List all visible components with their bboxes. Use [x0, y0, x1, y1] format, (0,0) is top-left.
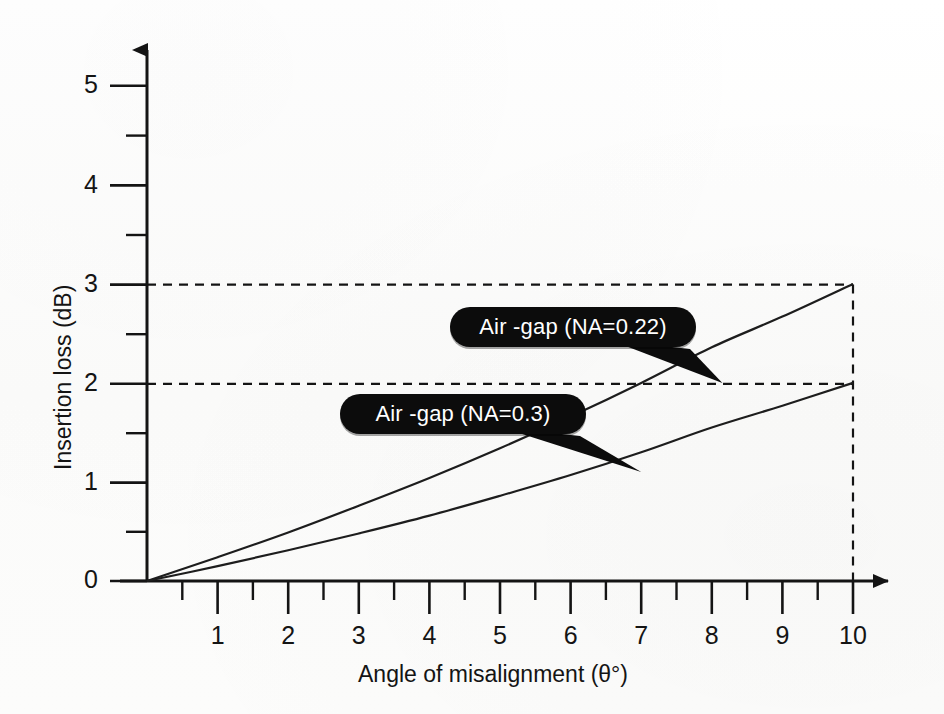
x-tick-label-7: 7	[626, 623, 656, 648]
y-tick-label-3: 3	[76, 271, 106, 296]
y-axis-title: Insertion loss (dB)	[52, 285, 75, 470]
x-tick-label-8: 8	[697, 623, 727, 648]
y-tick-label-1: 1	[76, 469, 106, 494]
x-tick-label-1: 1	[203, 623, 233, 648]
y-tick-label-0: 0	[76, 567, 106, 592]
x-tick-label-4: 4	[414, 623, 444, 648]
x-tick-label-2: 2	[273, 623, 303, 648]
x-tick-label-9: 9	[767, 623, 797, 648]
x-tick-label-3: 3	[344, 623, 374, 648]
x-tick-label-5: 5	[485, 623, 515, 648]
x-tick-label-10: 10	[834, 623, 872, 648]
callout-air-gap-na-0-3: Air -gap (NA=0.3)	[340, 394, 586, 434]
y-tick-label-4: 4	[76, 172, 106, 197]
x-axis-title: Angle of misalignment (θ°)	[358, 663, 628, 686]
plot-canvas	[0, 0, 944, 714]
callout-air-gap-na-0-22: Air -gap (NA=0.22)	[450, 307, 696, 347]
y-tick-label-2: 2	[76, 370, 106, 395]
x-axis-ticks	[182, 581, 853, 614]
y-tick-label-5: 5	[76, 72, 106, 97]
x-tick-label-6: 6	[556, 623, 586, 648]
chart-figure: 5 4 3 2 1 0 1 2 3 4 5 6 7 8 9 10 Inserti…	[0, 0, 944, 714]
y-axis-ticks	[110, 86, 147, 581]
